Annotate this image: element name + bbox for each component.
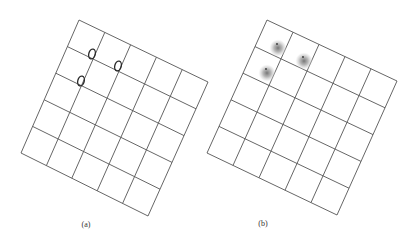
- grid-line-col: [123, 70, 183, 204]
- grid-line-col: [148, 82, 208, 216]
- caption-b: (b): [258, 219, 267, 228]
- blob-peak-dot: [276, 43, 278, 45]
- gaussian-blob: [269, 39, 287, 57]
- blob-peak-dot: [265, 68, 267, 70]
- blob-peak-dot: [302, 56, 304, 58]
- grid-line-row: [219, 126, 349, 188]
- grid-line-row: [33, 126, 160, 189]
- grid-b: [207, 20, 397, 215]
- grid-line-col: [21, 20, 79, 153]
- ellipse-marker: [77, 75, 86, 86]
- grid-a: [21, 20, 208, 216]
- grid-line-row: [79, 20, 208, 82]
- gaussian-blob: [258, 64, 276, 82]
- figure-canvas: [0, 0, 415, 242]
- grid-line-col: [97, 57, 156, 191]
- ellipse-marker: [114, 60, 123, 71]
- grid-line-row: [67, 47, 196, 109]
- panel-a: [21, 20, 208, 216]
- grid-line-row: [21, 153, 148, 216]
- grid-line-row: [231, 100, 361, 162]
- gaussian-blob: [295, 52, 313, 70]
- caption-a: (a): [82, 220, 91, 229]
- grid-line-row: [207, 153, 337, 215]
- grid-line-row: [44, 100, 172, 163]
- grid-line-col: [207, 20, 267, 153]
- grid-line-row: [243, 73, 373, 134]
- grid-line-row: [56, 73, 184, 135]
- panel-b: [207, 20, 397, 215]
- ellipse-marker: [88, 48, 97, 59]
- grid-line-col: [285, 57, 345, 191]
- grid-line-col: [337, 81, 397, 215]
- grid-line-col: [311, 69, 371, 203]
